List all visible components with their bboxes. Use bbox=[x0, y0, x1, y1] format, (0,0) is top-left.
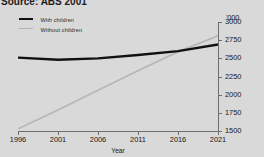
y-axis-tick-label: 1500 bbox=[225, 127, 241, 134]
plot-area bbox=[18, 22, 218, 131]
y-axis-tick bbox=[218, 22, 222, 23]
x-axis-title: Year bbox=[111, 147, 124, 154]
x-axis-tick-label: 2016 bbox=[170, 136, 186, 143]
y-axis-tick bbox=[218, 77, 222, 78]
y-axis-tick bbox=[218, 95, 222, 96]
chart-container: Source: ABS 2001 With children Without c… bbox=[0, 0, 264, 157]
y-axis-tick bbox=[218, 113, 222, 114]
series-svg bbox=[18, 22, 218, 131]
y-axis-tick-label: 2250 bbox=[225, 73, 241, 80]
y-axis-tick bbox=[218, 40, 222, 41]
y-axis-tick-label: 1750 bbox=[225, 109, 241, 116]
y-axis-tick-label: 2500 bbox=[225, 54, 241, 61]
y-axis-tick-label: 3000 bbox=[225, 18, 241, 25]
x-axis-tick-label: 1996 bbox=[10, 136, 26, 143]
x-axis-tick-label: 2006 bbox=[90, 136, 106, 143]
x-axis-line bbox=[18, 131, 218, 132]
x-axis-tick-label: 2011 bbox=[130, 136, 146, 143]
legend-item-with-children: With children bbox=[19, 10, 82, 18]
x-axis-tick-label: 2001 bbox=[50, 136, 66, 143]
source-title: Source: ABS 2001 bbox=[1, 0, 87, 7]
x-axis-tick-label: 2021 bbox=[210, 136, 226, 143]
y-axis-tick-label: 2000 bbox=[225, 91, 241, 98]
y-axis-tick bbox=[218, 58, 222, 59]
y-axis-tick-label: 2750 bbox=[225, 36, 241, 43]
series-line-with-children bbox=[18, 45, 218, 60]
